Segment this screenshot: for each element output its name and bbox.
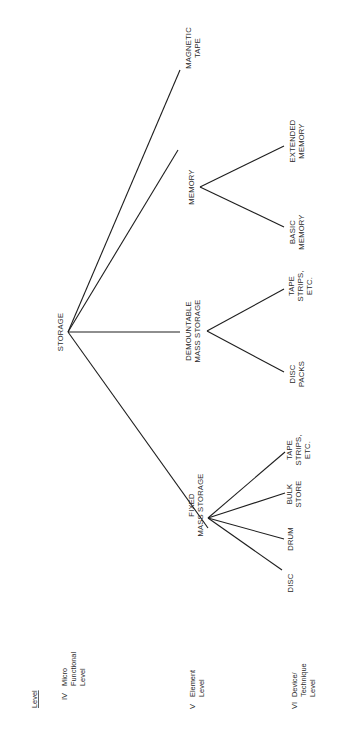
edge-demountable-tape-strips [207, 289, 284, 331]
level-v-line2: Level [197, 679, 206, 697]
level-v-roman: V [188, 704, 197, 709]
node-disc: DISC [286, 573, 295, 592]
node-demountable-tape-strips: TAPE STRIPS, ETC. [287, 271, 314, 302]
node-disc-packs: DISC PACKS [288, 361, 306, 387]
node-disc-packs-line2: PACKS [297, 361, 306, 387]
node-bulk-line1: BULK [285, 484, 294, 505]
level-v-line1: Element [188, 670, 197, 697]
node-disc-packs-line1: DISC [288, 364, 297, 383]
level-iv-line1: Micro [60, 668, 69, 686]
edge-fixed-tape-strips [208, 452, 285, 518]
node-extended-line1: EXTENDED [288, 119, 297, 162]
edge-demountable-disc-packs [207, 331, 284, 372]
node-bulk-store: BULK STORE [285, 480, 303, 507]
level-iv-roman: IV [60, 693, 69, 700]
node-memory: MEMORY [187, 169, 196, 204]
level-vi: VI Device/ Technique Level [290, 663, 317, 709]
edge-memory-extended [200, 146, 284, 187]
level-iv-line3: Level [78, 668, 87, 686]
level-vi-line1: Device/ [290, 671, 299, 697]
edge-memory-basic [200, 187, 284, 227]
node-basic-line1: BASIC [288, 220, 297, 244]
level-vi-line3: Level [308, 679, 317, 697]
level-header: Level [30, 690, 39, 708]
node-extended-memory: EXTENDED MEMORY [288, 119, 306, 162]
level-iv-line2: Functional [69, 652, 78, 686]
node-basic-memory: BASIC MEMORY [288, 214, 306, 249]
node-fixed-line1: FIXED [187, 493, 196, 517]
node-demountable-line2: MASS STORAGE [193, 299, 202, 362]
edge-fixed-disc [208, 518, 282, 570]
node-demountable-line1: DEMOUNTABLE [184, 301, 193, 360]
node-fixed-tape-line1: TAPE [285, 440, 294, 460]
tree-edges [68, 70, 285, 570]
edge-fixed-drum [208, 518, 284, 539]
level-v: V Element Level [188, 670, 206, 709]
node-dem-tape-line3: ETC. [305, 277, 314, 295]
node-fixed-tape-strips: TAPE STRIPS, ETC. [285, 435, 312, 466]
level-vi-roman: VI [290, 702, 299, 709]
level-legend: Level IV Micro Functional Level V Elemen… [30, 652, 317, 709]
node-bulk-line2: STORE [294, 480, 303, 507]
node-fixed-mass-storage: FIXED MASS STORAGE [187, 473, 205, 536]
level-vi-line2: Technique [299, 663, 308, 697]
edge-fixed-bulk-store [208, 493, 285, 518]
node-extended-line2: MEMORY [297, 123, 306, 158]
node-dem-tape-line1: TAPE [287, 276, 296, 296]
edge-storage-memory [68, 150, 178, 332]
node-fixed-line2: MASS STORAGE [196, 473, 205, 536]
node-demountable-mass-storage: DEMOUNTABLE MASS STORAGE [184, 299, 202, 362]
node-fixed-tape-line3: ETC. [303, 441, 312, 459]
node-drum: DRUM [286, 527, 295, 551]
storage-hierarchy-diagram: Level IV Micro Functional Level V Elemen… [0, 0, 345, 749]
node-fixed-tape-line2: STRIPS, [294, 435, 303, 466]
level-iv: IV Micro Functional Level [60, 652, 87, 700]
node-magnetic-line1: MAGNETIC [184, 27, 193, 69]
node-basic-line2: MEMORY [297, 214, 306, 249]
node-dem-tape-line2: STRIPS, [296, 271, 305, 302]
node-magnetic-tape: MAGNETIC TAPE [184, 27, 202, 69]
tree-nodes: STORAGE FIXED MASS STORAGE DEMOUNTABLE M… [56, 27, 314, 593]
node-magnetic-line2: TAPE [193, 38, 202, 58]
edge-storage-magnetic-tape [68, 70, 180, 332]
node-storage: STORAGE [56, 313, 65, 351]
